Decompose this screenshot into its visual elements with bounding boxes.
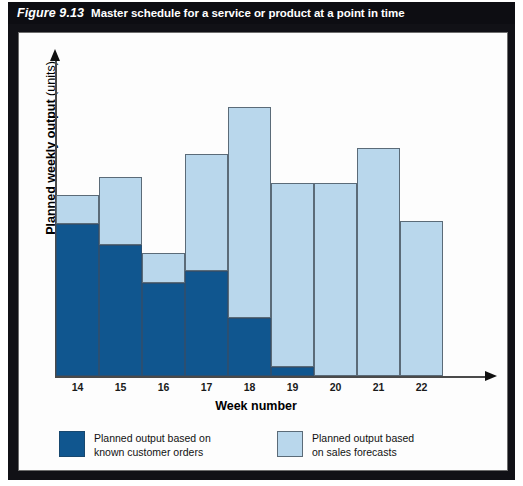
bar-segment-orders-week-16 — [142, 283, 185, 376]
legend-swatch-orders-icon — [59, 431, 85, 457]
bar-segment-forecast-week-14 — [56, 195, 99, 224]
chart-canvas: Planned weekly output (units) 1415161718… — [19, 33, 507, 470]
figure-container: Figure 9.13Master schedule for a service… — [8, 2, 515, 480]
x-tick-label-21: 21 — [357, 381, 400, 393]
bar-segment-forecast-week-17 — [185, 154, 228, 271]
x-tick-label-22: 22 — [400, 381, 443, 393]
bar-segment-forecast-week-21 — [357, 148, 400, 376]
bar-segment-forecast-week-22 — [400, 221, 443, 376]
legend-label-forecasts: Planned output based on sales forecasts — [312, 431, 414, 459]
legend-swatch-forecasts-icon — [277, 431, 303, 457]
figure-number: Figure 9.13 — [17, 6, 84, 20]
bar-column-week-16 — [142, 253, 185, 376]
chart-legend: Planned output based on known customer o… — [59, 431, 489, 471]
x-tick-label-20: 20 — [314, 381, 357, 393]
bar-segment-orders-week-15 — [99, 245, 142, 376]
chart-plate: Planned weekly output (units) 1415161718… — [18, 32, 508, 471]
bar-segment-forecast-week-19 — [271, 183, 314, 367]
legend-item-known-customer-orders: Planned output based on known customer o… — [59, 431, 211, 459]
x-tick-label-19: 19 — [271, 381, 314, 393]
bar-segment-forecast-week-20 — [314, 183, 357, 376]
figure-title-bar: Figure 9.13Master schedule for a service… — [8, 2, 515, 24]
x-axis-tick-labels: 141516171819202122 — [56, 381, 487, 397]
x-tick-label-17: 17 — [185, 381, 228, 393]
bars-group — [56, 33, 487, 376]
bar-column-week-21 — [357, 148, 400, 376]
bar-column-week-15 — [99, 177, 142, 376]
legend-item-sales-forecasts: Planned output based on sales forecasts — [277, 431, 414, 459]
bar-column-week-18 — [228, 107, 271, 376]
x-axis-line — [55, 376, 487, 378]
bar-column-week-22 — [400, 221, 443, 376]
x-tick-label-14: 14 — [56, 381, 99, 393]
x-tick-label-16: 16 — [142, 381, 185, 393]
figure-frame: Planned weekly output (units) 1415161718… — [8, 24, 515, 480]
bar-segment-orders-week-17 — [185, 271, 228, 376]
bar-segment-forecast-week-16 — [142, 253, 185, 282]
bar-column-week-20 — [314, 183, 357, 376]
figure-title: Master schedule for a service or product… — [91, 7, 404, 19]
bar-segment-orders-week-19 — [271, 367, 314, 376]
x-axis-title: Week number — [56, 399, 456, 413]
bar-segment-forecast-week-15 — [99, 177, 142, 244]
x-tick-label-18: 18 — [228, 381, 271, 393]
bar-column-week-17 — [185, 154, 228, 376]
bar-column-week-19 — [271, 183, 314, 376]
x-tick-label-15: 15 — [99, 381, 142, 393]
bar-column-week-14 — [56, 195, 99, 376]
bar-segment-orders-week-18 — [228, 318, 271, 376]
bar-segment-forecast-week-18 — [228, 107, 271, 317]
bar-segment-orders-week-14 — [56, 224, 99, 376]
legend-label-orders: Planned output based on known customer o… — [94, 431, 211, 459]
